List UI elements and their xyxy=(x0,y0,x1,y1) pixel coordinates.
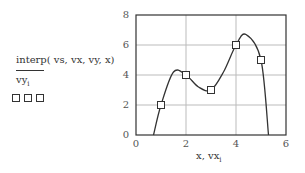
plot-area[interactable]: 024602468 xyxy=(0,0,305,173)
x-tick-label: 0 xyxy=(133,138,139,149)
data-marker xyxy=(233,42,240,49)
x-tick-label: 4 xyxy=(233,138,239,149)
data-marker xyxy=(208,87,215,94)
y-tick-label: 2 xyxy=(123,99,129,110)
y-tick-label: 0 xyxy=(123,129,129,140)
x-tick-label: 6 xyxy=(283,138,289,149)
data-marker xyxy=(158,102,165,109)
y-tick-label: 6 xyxy=(123,39,129,50)
data-marker xyxy=(183,72,190,79)
interp-curve xyxy=(154,34,269,135)
y-tick-label: 8 xyxy=(123,9,129,20)
data-marker xyxy=(258,57,265,64)
x-tick-label: 2 xyxy=(183,138,189,149)
x-axis-label: x, vxi xyxy=(196,150,222,164)
y-tick-label: 4 xyxy=(123,69,129,80)
